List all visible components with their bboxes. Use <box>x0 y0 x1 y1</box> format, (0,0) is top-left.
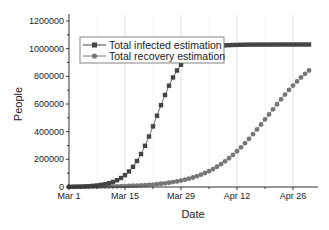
square-marker-icon <box>279 42 283 46</box>
square-marker-icon <box>139 152 143 156</box>
square-marker-icon <box>259 42 263 46</box>
circle-marker-icon <box>303 71 308 76</box>
square-marker-icon <box>255 42 259 46</box>
y-tick-label: 1000000 <box>29 44 64 54</box>
y-tick-label: 1200000 <box>29 16 64 26</box>
series-infected <box>67 42 311 189</box>
square-marker-icon <box>115 178 119 182</box>
circle-marker-icon <box>251 132 256 137</box>
circle-marker-icon <box>175 179 180 184</box>
circle-marker-icon <box>92 53 97 58</box>
square-marker-icon <box>291 42 295 46</box>
circle-marker-icon <box>263 117 268 122</box>
circle-marker-icon <box>259 122 264 127</box>
circle-marker-icon <box>223 159 228 164</box>
square-marker-icon <box>303 42 307 46</box>
square-marker-icon <box>235 43 239 47</box>
square-marker-icon <box>267 42 271 46</box>
square-marker-icon <box>227 43 231 47</box>
legend: Total infected estimation Total recovery… <box>80 37 225 63</box>
y-tick-label: 400000 <box>34 127 64 137</box>
y-tick-label: 600000 <box>34 99 64 109</box>
y-axis-title: People <box>12 87 24 121</box>
circle-marker-icon <box>255 127 260 132</box>
circle-marker-icon <box>243 141 248 146</box>
circle-marker-icon <box>179 178 184 183</box>
y-tick-label: 800000 <box>34 71 64 81</box>
square-marker-icon <box>299 42 303 46</box>
square-marker-icon <box>119 176 123 180</box>
x-tick-label: Mar 29 <box>167 191 195 201</box>
circle-marker-icon <box>287 88 292 93</box>
circle-marker-icon <box>291 83 296 88</box>
square-marker-icon <box>247 42 251 46</box>
circle-marker-icon <box>283 92 288 97</box>
square-marker-icon <box>87 184 91 188</box>
square-marker-icon <box>135 159 139 163</box>
square-marker-icon <box>307 42 311 46</box>
square-marker-icon <box>231 43 235 47</box>
circle-marker-icon <box>215 164 220 169</box>
square-marker-icon <box>283 42 287 46</box>
square-marker-icon <box>167 84 171 88</box>
legend-label-recovery: Total recovery estimation <box>109 50 225 62</box>
x-axis-title: Date <box>181 208 204 220</box>
series-recovery <box>67 68 312 189</box>
square-marker-icon <box>147 134 151 138</box>
circle-marker-icon <box>167 180 172 185</box>
square-marker-icon <box>171 75 175 79</box>
circle-marker-icon <box>275 102 280 107</box>
x-tick-label: Apr 12 <box>224 191 251 201</box>
square-marker-icon <box>239 43 243 47</box>
circle-marker-icon <box>247 136 252 141</box>
square-marker-icon <box>163 93 167 97</box>
chart: 020000040000060000080000010000001200000 … <box>0 0 329 230</box>
square-marker-icon <box>155 114 159 118</box>
circle-marker-icon <box>239 145 244 150</box>
circle-marker-icon <box>295 79 300 84</box>
circle-marker-icon <box>267 112 272 117</box>
square-marker-icon <box>143 144 147 148</box>
circle-marker-icon <box>211 167 216 172</box>
square-marker-icon <box>271 42 275 46</box>
square-marker-icon <box>275 42 279 46</box>
y-axis-ticks: 020000040000060000080000010000001200000 <box>29 16 69 192</box>
square-marker-icon <box>83 184 87 188</box>
square-marker-icon <box>92 43 97 48</box>
circle-marker-icon <box>279 97 284 102</box>
x-tick-label: Apr 26 <box>280 191 307 201</box>
circle-marker-icon <box>235 149 240 154</box>
square-marker-icon <box>107 181 111 185</box>
square-marker-icon <box>131 165 135 169</box>
square-marker-icon <box>287 42 291 46</box>
square-marker-icon <box>263 42 267 46</box>
circle-marker-icon <box>227 156 232 161</box>
square-marker-icon <box>103 182 107 186</box>
x-tick-label: Mar 1 <box>57 191 80 201</box>
square-marker-icon <box>111 180 115 184</box>
square-marker-icon <box>151 124 155 128</box>
square-marker-icon <box>243 43 247 47</box>
square-marker-icon <box>99 183 103 187</box>
circle-marker-icon <box>219 162 224 167</box>
circle-marker-icon <box>183 177 188 182</box>
circle-marker-icon <box>271 107 276 112</box>
square-marker-icon <box>127 169 131 173</box>
y-tick-label: 200000 <box>34 154 64 164</box>
square-marker-icon <box>175 68 179 72</box>
x-tick-label: Mar 15 <box>111 191 139 201</box>
circle-marker-icon <box>307 68 312 73</box>
square-marker-icon <box>295 42 299 46</box>
circle-marker-icon <box>171 180 176 185</box>
square-marker-icon <box>251 42 255 46</box>
circle-marker-icon <box>299 75 304 80</box>
square-marker-icon <box>123 173 127 177</box>
circle-marker-icon <box>231 153 236 158</box>
x-axis-ticks: Mar 1Mar 15Mar 29Apr 12Apr 26 <box>57 187 306 201</box>
square-marker-icon <box>159 103 163 107</box>
